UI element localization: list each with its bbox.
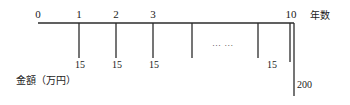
time-axis-title: 年数 (310, 11, 330, 21)
period-label-10: 10 (278, 9, 304, 20)
period-label-1: 1 (69, 9, 89, 20)
ellipsis-marker: … … (212, 39, 234, 48)
outflow-amount-year-3: 15 (144, 60, 164, 70)
value-axis-title: 金額（万円） (16, 76, 76, 86)
terminal-outflow-amount: 200 (297, 80, 312, 90)
period-label-0: 0 (28, 9, 48, 20)
cash-flow-diagram: 0 1 2 3 10 年数 … … 15 15 15 15 200 金額（万円） (0, 0, 350, 105)
outflow-amount-year-10: 15 (262, 60, 282, 70)
outflow-amount-year-1: 15 (70, 60, 90, 70)
period-label-2: 2 (106, 9, 126, 20)
outflow-amount-year-2: 15 (107, 60, 127, 70)
period-label-3: 3 (143, 9, 163, 20)
